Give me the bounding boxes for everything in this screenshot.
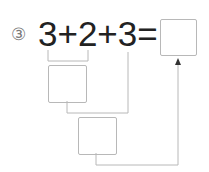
connector-lines	[0, 0, 209, 172]
connector-to-answer	[96, 64, 178, 165]
arrow-up-icon	[175, 58, 181, 65]
bracket-first-two-terms	[48, 50, 88, 61]
